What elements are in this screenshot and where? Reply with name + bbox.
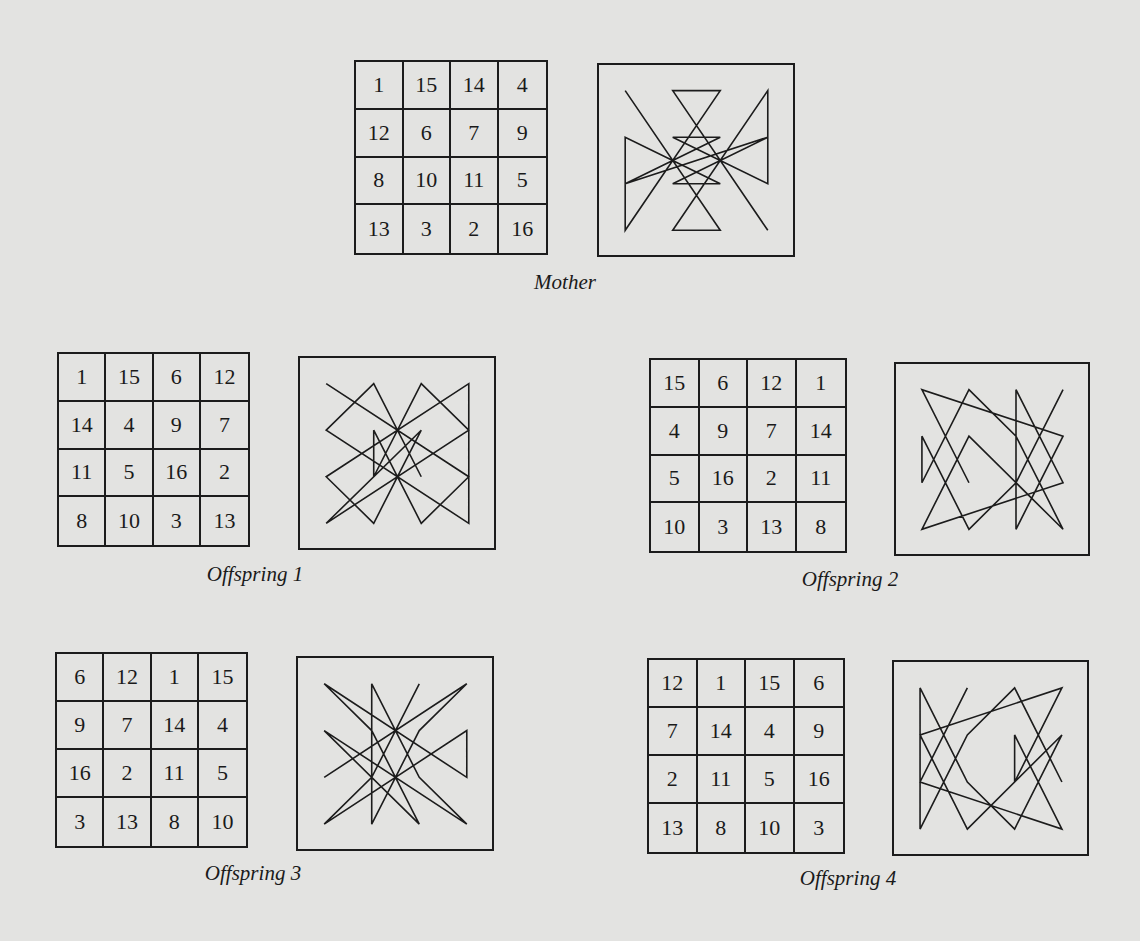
grid-cell: 15 [404,62,452,110]
grid-cell: 9 [499,110,547,158]
grid-cell: 16 [700,456,749,504]
panel-caption: Offspring 4 [800,866,896,891]
grid-cell: 5 [106,450,153,498]
grid-cell: 6 [795,660,844,708]
grid-cell: 11 [451,158,499,206]
grid-cell: 1 [356,62,404,110]
panel-caption: Offspring 1 [207,562,303,587]
grid-cell: 7 [201,402,248,450]
grid-cell: 4 [499,62,547,110]
grid-cell: 1 [152,654,199,702]
grid-cell: 4 [106,402,153,450]
grid-cell: 13 [104,798,151,846]
grid-cell: 2 [201,450,248,498]
grid-cell: 8 [797,503,846,551]
grid-cell: 8 [356,158,404,206]
grid-cell: 5 [651,456,700,504]
grid-cell: 10 [106,497,153,545]
grid-cell: 14 [797,408,846,456]
panel-caption: Offspring 3 [205,861,301,886]
grid-cell: 9 [795,708,844,756]
grid-cell: 16 [154,450,201,498]
grid-cell: 7 [748,408,797,456]
sequence-path [625,91,768,231]
grid-cell: 14 [451,62,499,110]
grid-cell: 7 [649,708,698,756]
grid-cell: 14 [59,402,106,450]
grid-cell: 10 [199,798,246,846]
line-drawing [597,63,795,257]
grid-cell: 15 [106,354,153,402]
grid-cell: 15 [651,360,700,408]
grid-cell: 6 [57,654,104,702]
grid-cell: 11 [59,450,106,498]
grid-cell: 13 [649,804,698,852]
grid-cell: 16 [499,205,547,253]
grid-cell: 5 [199,750,246,798]
grid-cell: 3 [795,804,844,852]
grid-cell: 1 [59,354,106,402]
grid-cell: 11 [698,756,747,804]
panel-caption: Mother [534,270,596,295]
grid-cell: 6 [154,354,201,402]
grid-cell: 5 [746,756,795,804]
line-drawing [894,362,1090,556]
grid-cell: 4 [199,702,246,750]
grid-cell: 6 [700,360,749,408]
grid-cell: 8 [59,497,106,545]
grid-cell: 3 [404,205,452,253]
grid-cell: 10 [651,503,700,551]
sequence-path [922,390,1063,530]
grid-cell: 9 [154,402,201,450]
grid-cell: 8 [698,804,747,852]
sequence-path [326,384,469,524]
grid-cell: 13 [201,497,248,545]
grid-cell: 12 [104,654,151,702]
grid-cell: 12 [649,660,698,708]
grid-cell: 13 [356,205,404,253]
grid-cell: 2 [748,456,797,504]
grid-cell: 8 [152,798,199,846]
line-drawing [892,660,1089,856]
number-grid: 12115671449211516138103 [647,658,845,854]
number-grid: 61211597144162115313810 [55,652,248,848]
grid-cell: 12 [748,360,797,408]
panel-caption: Offspring 2 [802,567,898,592]
grid-cell: 4 [746,708,795,756]
number-grid: 11514412679810115133216 [354,60,548,255]
grid-cell: 13 [748,503,797,551]
grid-cell: 4 [651,408,700,456]
grid-cell: 11 [797,456,846,504]
grid-cell: 1 [698,660,747,708]
grid-cell: 3 [57,798,104,846]
number-grid: 15612149714516211103138 [649,358,847,553]
sequence-path [920,688,1062,829]
grid-cell: 3 [700,503,749,551]
grid-cell: 6 [404,110,452,158]
grid-cell: 10 [746,804,795,852]
grid-cell: 14 [152,702,199,750]
grid-cell: 12 [201,354,248,402]
grid-cell: 3 [154,497,201,545]
number-grid: 11561214497115162810313 [57,352,250,547]
grid-cell: 7 [104,702,151,750]
grid-cell: 10 [404,158,452,206]
grid-cell: 11 [152,750,199,798]
grid-cell: 1 [797,360,846,408]
grid-cell: 16 [795,756,844,804]
line-drawing [296,656,494,851]
grid-cell: 12 [356,110,404,158]
grid-cell: 15 [746,660,795,708]
grid-cell: 2 [104,750,151,798]
grid-cell: 9 [57,702,104,750]
sequence-path [324,684,467,824]
grid-cell: 7 [451,110,499,158]
grid-cell: 15 [199,654,246,702]
line-drawing [298,356,496,550]
grid-cell: 2 [649,756,698,804]
grid-cell: 14 [698,708,747,756]
grid-cell: 9 [700,408,749,456]
grid-cell: 2 [451,205,499,253]
grid-cell: 16 [57,750,104,798]
grid-cell: 5 [499,158,547,206]
